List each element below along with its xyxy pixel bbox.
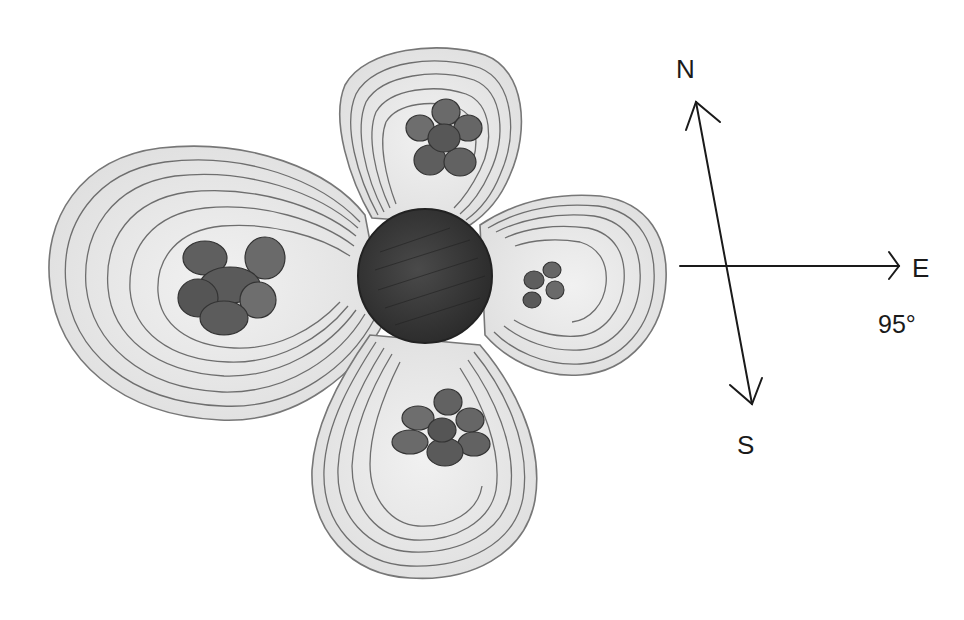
compass-south-label: S [737, 432, 754, 458]
compass [680, 102, 899, 404]
compass-east-label: E [912, 255, 929, 281]
north-arrowhead-icon [686, 102, 720, 130]
compass-angle-label: 95° [878, 312, 916, 337]
north-lobe [340, 48, 522, 225]
south-lobe [312, 335, 537, 578]
west-lobe [49, 146, 385, 420]
north-south-axis [696, 102, 752, 404]
lobed-sphere-diagram [0, 0, 964, 620]
south-arrowhead-icon [730, 378, 762, 404]
east-lobe [480, 195, 666, 375]
compass-north-label: N [676, 56, 695, 82]
central-sphere [358, 209, 492, 343]
